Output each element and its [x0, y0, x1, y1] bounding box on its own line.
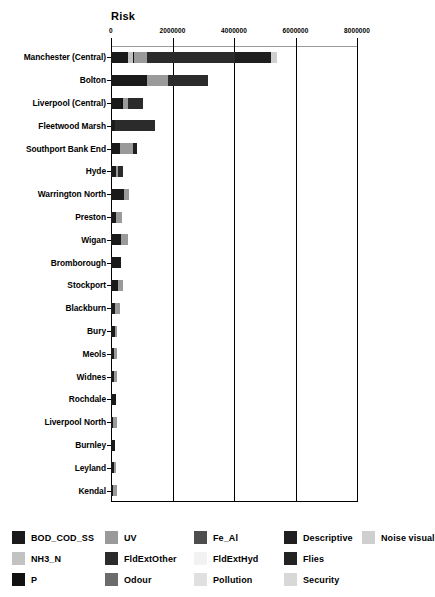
bar-segment [120, 143, 133, 154]
bar-segment [128, 98, 142, 109]
legend-item[interactable]: Flies [284, 548, 324, 569]
stacked-bar [111, 189, 129, 200]
legend-swatch-icon [194, 531, 207, 544]
x-tick-mark [111, 38, 112, 46]
legend-swatch-icon [12, 552, 25, 565]
bar-segment [111, 52, 128, 63]
bar-segment [111, 189, 124, 200]
legend: BOD_COD_SSUVFe_AlDescriptiveNoise visual… [12, 527, 384, 590]
legend-item[interactable]: P [12, 569, 37, 590]
bar-segment [111, 394, 116, 405]
legend-swatch-icon [105, 531, 118, 544]
bar-segment [271, 52, 277, 63]
legend-swatch-icon [105, 573, 118, 586]
x-tick-label: 2000000 [159, 27, 185, 34]
bar-segment [115, 120, 155, 131]
gridline [173, 46, 174, 502]
bar-segment [118, 166, 123, 177]
legend-label: Security [303, 575, 339, 585]
category-label: Hyde [86, 166, 106, 176]
legend-label: UV [124, 533, 137, 543]
legend-swatch-icon [105, 552, 118, 565]
category-label: Leyland [75, 463, 106, 473]
stacked-bar [111, 326, 117, 337]
bar-row: Meols [111, 348, 357, 359]
bar-row: Blackburn [111, 303, 357, 314]
bar-segment [115, 303, 120, 314]
stacked-bar [111, 52, 277, 63]
legend-item[interactable]: Descriptive [284, 527, 353, 548]
legend-row: BOD_COD_SSUVFe_AlDescriptiveNoise visual [12, 527, 384, 548]
category-label: Kendal [78, 486, 106, 496]
legend-item[interactable]: BOD_COD_SS [12, 527, 94, 548]
legend-row: POdourPollutionSecurity [12, 569, 384, 590]
stacked-bar [111, 394, 116, 405]
bar-row: Hyde [111, 166, 357, 177]
category-label: Southport Bank End [26, 144, 106, 154]
x-tick-mark [173, 38, 174, 46]
bar-row: Wigan [111, 234, 357, 245]
legend-label: NH3_N [31, 554, 61, 564]
bar-segment [168, 75, 208, 86]
stacked-bar [111, 166, 123, 177]
bar-segment [114, 462, 116, 473]
bar-row: Leyland [111, 462, 357, 473]
legend-item[interactable]: Security [284, 569, 339, 590]
bar-segment [111, 98, 121, 109]
category-label: Widnes [77, 372, 106, 382]
bar-segment [111, 280, 118, 291]
stacked-bar [111, 280, 123, 291]
legend-item[interactable]: Fe_Al [194, 527, 238, 548]
legend-item[interactable]: Odour [105, 569, 152, 590]
category-label: Fleetwood Marsh [38, 121, 106, 131]
legend-label: FldExtOther [124, 554, 177, 564]
legend-swatch-icon [12, 531, 25, 544]
legend-item[interactable]: UV [105, 527, 137, 548]
bar-row: Southport Bank End [111, 143, 357, 154]
stacked-bar [111, 440, 115, 451]
bar-segment [114, 371, 116, 382]
stacked-bar [111, 462, 116, 473]
bar-segment [115, 326, 117, 337]
legend-item[interactable]: FldExtHyd [194, 548, 258, 569]
category-label: Preston [75, 212, 106, 222]
bar-segment [124, 189, 129, 200]
bar-row: Bromborough [111, 257, 357, 268]
gridline [296, 46, 297, 502]
legend-label: Fe_Al [213, 533, 238, 543]
legend-swatch-icon [284, 573, 297, 586]
bar-row: Fleetwood Marsh [111, 120, 357, 131]
plot-area: Manchester (Central)BoltonLiverpool (Cen… [111, 46, 357, 502]
legend-row: NH3_NFldExtOtherFldExtHydFlies [12, 548, 384, 569]
legend-label: BOD_COD_SS [31, 533, 94, 543]
legend-swatch-icon [284, 531, 297, 544]
legend-swatch-icon [362, 531, 375, 544]
bar-segment [134, 52, 146, 63]
bar-segment [147, 75, 169, 86]
legend-item[interactable]: FldExtOther [105, 548, 177, 569]
category-label: Bury [87, 326, 106, 336]
legend-item[interactable]: Pollution [194, 569, 252, 590]
bar-segment [111, 257, 121, 268]
stacked-bar [111, 303, 120, 314]
x-tick-mark [357, 38, 358, 46]
stacked-bar [111, 143, 137, 154]
bar-row: Kendal [111, 485, 357, 496]
stacked-bar [111, 120, 155, 131]
legend-swatch-icon [284, 552, 297, 565]
category-label: Meols [83, 349, 107, 359]
category-label: Blackburn [65, 303, 106, 313]
legend-label: Odour [124, 575, 152, 585]
stacked-bar [111, 75, 208, 86]
bar-segment [133, 143, 136, 154]
legend-swatch-icon [12, 573, 25, 586]
bar-row: Bolton [111, 75, 357, 86]
x-axis-line [111, 501, 357, 502]
legend-item[interactable]: NH3_N [12, 548, 61, 569]
legend-label: FldExtHyd [213, 554, 258, 564]
category-label: Manchester (Central) [24, 52, 106, 62]
legend-item[interactable]: Noise visual [362, 527, 435, 548]
gridline [234, 46, 235, 502]
stacked-bar [111, 417, 117, 428]
